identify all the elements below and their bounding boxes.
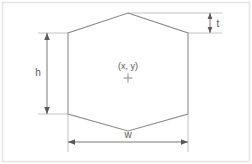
dimension-label-w: w: [123, 129, 132, 140]
dimension-label-t: t: [217, 18, 220, 29]
center-coordinate-label: (x, y): [118, 61, 138, 71]
dimension-label-h: h: [35, 67, 41, 78]
hexagon-dimension-diagram: h w t (x, y): [0, 0, 252, 164]
diagram-panel: h w t (x, y): [0, 0, 252, 164]
